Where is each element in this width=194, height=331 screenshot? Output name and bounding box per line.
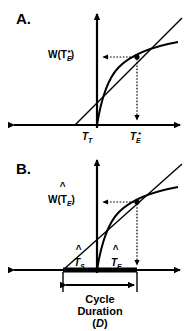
panel-b-w-label-close: ) xyxy=(72,194,75,205)
panel-b: B. W(TE) ^ TS xyxy=(14,160,182,329)
panel-b-w-label-base: W(T xyxy=(48,194,67,205)
panel-a-tick-tt-sub: T xyxy=(88,137,93,144)
cycle-duration-caption-line1: Cycle xyxy=(85,293,114,305)
panel-a-tick-te-star: * xyxy=(138,130,142,139)
panel-a: A. W(TE*) TT xyxy=(14,10,182,144)
panel-b-w-label: W(TE) ^ xyxy=(48,181,75,207)
panel-b-tick-te-sub: E xyxy=(117,263,122,270)
panel-b-w-label-hat: ^ xyxy=(60,181,66,192)
panel-a-label: A. xyxy=(16,10,31,27)
panel-b-label: B. xyxy=(16,160,31,177)
panel-b-tick-exploit-time: TE ^ xyxy=(111,244,122,270)
panel-a-tick-travel-time: TT xyxy=(82,131,93,144)
panel-b-tangency-point xyxy=(134,199,139,204)
panel-a-w-label: W(TE*) xyxy=(48,48,74,62)
svg-text:W(TE*): W(TE*) xyxy=(48,48,74,62)
panel-b-tick-ts-sub: S xyxy=(80,263,85,270)
cycle-duration-caption-line2: Duration xyxy=(77,305,123,317)
svg-text:TT: TT xyxy=(82,131,93,144)
panel-a-w-label-close: ) xyxy=(71,49,74,60)
two-panel-gain-function-figure: A. W(TE*) TT xyxy=(0,0,194,331)
cycle-duration-caption-line3: (D) xyxy=(92,317,108,329)
panel-b-tick-search-time: TS ^ xyxy=(74,244,85,270)
caption-symbol-d: D xyxy=(96,317,104,329)
panel-b-tick-ts-hat: ^ xyxy=(76,244,82,255)
svg-text:W(TE): W(TE) xyxy=(48,194,75,207)
caption-paren-close: ) xyxy=(104,317,108,329)
panel-a-w-label-base: W(T xyxy=(48,49,67,60)
panel-a-tangent-line xyxy=(75,18,182,125)
panel-a-tangency-point xyxy=(134,54,139,59)
panel-b-tick-te-hat: ^ xyxy=(113,244,119,255)
svg-text:TE*: TE* xyxy=(130,130,142,144)
panel-a-tick-optimal-time: TE* xyxy=(130,130,142,144)
